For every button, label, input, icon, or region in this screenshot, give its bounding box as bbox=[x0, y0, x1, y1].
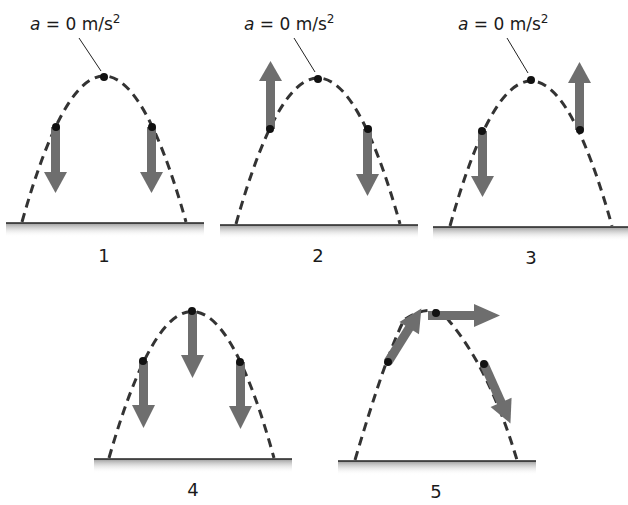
apex-point bbox=[314, 75, 322, 83]
acceleration-annotation: a = 0 m/s2 bbox=[30, 12, 120, 34]
arrow-down-shaft bbox=[236, 362, 245, 408]
arrow-down-shaft bbox=[188, 311, 197, 357]
arrow-up-shaft bbox=[266, 79, 275, 129]
ground-shadow bbox=[220, 225, 418, 239]
ground-shadow bbox=[433, 227, 628, 241]
trajectory bbox=[22, 76, 186, 222]
apex-point bbox=[432, 309, 440, 317]
apex-point bbox=[527, 76, 535, 84]
arrow-down-shaft bbox=[478, 131, 487, 178]
arrow-shaft bbox=[480, 362, 506, 406]
leader-line bbox=[294, 38, 315, 72]
arrow-down-shaft bbox=[363, 129, 372, 176]
arrow-right-icon bbox=[474, 304, 500, 327]
arrow-down-shaft bbox=[147, 127, 156, 174]
ascending-point bbox=[266, 125, 274, 133]
panel-label: 2 bbox=[312, 245, 323, 266]
ground-shadow bbox=[94, 459, 292, 473]
arrow-down-icon bbox=[181, 355, 204, 378]
panel-2: a = 0 m/s2 2 bbox=[220, 12, 418, 266]
ascending-point bbox=[478, 127, 486, 135]
arrow-down-shaft bbox=[139, 361, 148, 407]
acceleration-annotation: a = 0 m/s2 bbox=[244, 12, 334, 34]
arrow-down-shaft bbox=[51, 127, 60, 174]
arrow-up-shaft bbox=[575, 80, 584, 130]
projectile-diagram: a = 0 m/s2 1 a = 0 m/s2 2 a = 0 m/s2 bbox=[0, 0, 628, 505]
panel-1: a = 0 m/s2 1 bbox=[6, 12, 204, 266]
arrow-down-icon bbox=[140, 172, 163, 193]
arrow-down-icon bbox=[229, 406, 252, 429]
panel-label: 5 bbox=[430, 481, 441, 502]
trajectory bbox=[236, 78, 400, 224]
panel-3: a = 0 m/s2 3 bbox=[433, 12, 628, 268]
arrow-down-icon bbox=[132, 405, 155, 428]
ground-shadow bbox=[338, 461, 536, 475]
panel-label: 1 bbox=[98, 245, 109, 266]
leader-line bbox=[79, 38, 101, 71]
ground-shadow bbox=[6, 223, 204, 237]
acceleration-annotation: a = 0 m/s2 bbox=[458, 12, 548, 34]
descending-point bbox=[480, 360, 488, 368]
descending-point bbox=[364, 125, 372, 133]
arrow-down-icon bbox=[44, 172, 67, 193]
trajectory bbox=[450, 81, 612, 226]
panel-label: 4 bbox=[187, 479, 198, 500]
descending-point bbox=[576, 126, 584, 134]
descending-point bbox=[148, 123, 156, 131]
ascending-point bbox=[139, 357, 147, 365]
arrow-down-icon bbox=[471, 176, 494, 197]
apex-point bbox=[100, 73, 108, 81]
ascending-point bbox=[384, 358, 392, 366]
leader-line bbox=[507, 38, 528, 73]
arrow-down-icon bbox=[356, 174, 379, 196]
arrow-up-icon bbox=[568, 62, 591, 83]
panel-4: 4 bbox=[94, 307, 292, 500]
descending-point bbox=[236, 358, 244, 366]
panel-label: 3 bbox=[525, 247, 536, 268]
panel-5: 5 bbox=[338, 302, 536, 502]
arrow-up-icon bbox=[259, 61, 282, 81]
ascending-point bbox=[52, 123, 60, 131]
apex-point bbox=[188, 307, 196, 315]
